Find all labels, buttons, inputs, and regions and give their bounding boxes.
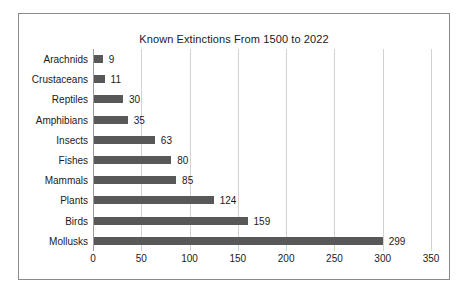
gridline [431, 49, 432, 251]
x-tick-label: 300 [374, 253, 391, 264]
bar-row: Amphibians35 [93, 110, 431, 130]
x-tick-label: 50 [136, 253, 147, 264]
bar-value-label: 159 [254, 215, 271, 226]
bar[interactable] [94, 55, 103, 63]
bar[interactable] [94, 136, 155, 144]
bar[interactable] [94, 217, 248, 225]
x-tick-label: 0 [90, 253, 96, 264]
bar[interactable] [94, 196, 214, 204]
bar[interactable] [94, 237, 383, 245]
x-tick-label: 350 [423, 253, 440, 264]
category-label: Plants [60, 195, 88, 206]
bar[interactable] [94, 75, 105, 83]
bar-value-label: 124 [220, 195, 237, 206]
category-label: Birds [65, 215, 88, 226]
category-label: Reptiles [52, 94, 88, 105]
bar[interactable] [94, 116, 128, 124]
x-tick-label: 150 [230, 253, 247, 264]
category-label: Fishes [59, 155, 88, 166]
category-label: Mollusks [49, 235, 88, 246]
category-label: Amphibians [36, 114, 88, 125]
bar-value-label: 80 [177, 155, 188, 166]
bar-value-label: 11 [111, 74, 121, 85]
bar-row: Mollusks299 [93, 231, 431, 251]
bar-value-label: 30 [129, 94, 140, 105]
bar-row: Reptiles30 [93, 89, 431, 109]
x-axis-tick-labels: 050100150200250300350 [93, 253, 431, 269]
bar-value-label: 9 [109, 54, 115, 65]
bar-value-label: 63 [161, 134, 172, 145]
bar[interactable] [94, 176, 176, 184]
bar-value-label: 85 [182, 175, 193, 186]
x-tick-label: 200 [278, 253, 295, 264]
bar[interactable] [94, 156, 171, 164]
category-label: Crustaceans [32, 74, 88, 85]
bar-value-label: 35 [134, 114, 145, 125]
bar-row: Arachnids9 [93, 49, 431, 69]
chart-frame: Known Extinctions From 1500 to 2022 Arac… [18, 13, 450, 280]
bar-value-label: 299 [389, 235, 406, 246]
category-label: Insects [56, 134, 88, 145]
x-tick-label: 100 [181, 253, 198, 264]
bar-row: Fishes80 [93, 150, 431, 170]
bar[interactable] [94, 95, 123, 103]
chart-title: Known Extinctions From 1500 to 2022 [19, 33, 449, 45]
bar-row: Mammals85 [93, 170, 431, 190]
category-label: Mammals [45, 175, 88, 186]
x-tick-label: 250 [326, 253, 343, 264]
bar-row: Crustaceans11 [93, 69, 431, 89]
bar-row: Birds159 [93, 211, 431, 231]
category-label: Arachnids [44, 54, 88, 65]
bar-row: Plants124 [93, 190, 431, 210]
bar-row: Insects63 [93, 130, 431, 150]
plot-area: Arachnids9Crustaceans11Reptiles30Amphibi… [93, 49, 431, 251]
